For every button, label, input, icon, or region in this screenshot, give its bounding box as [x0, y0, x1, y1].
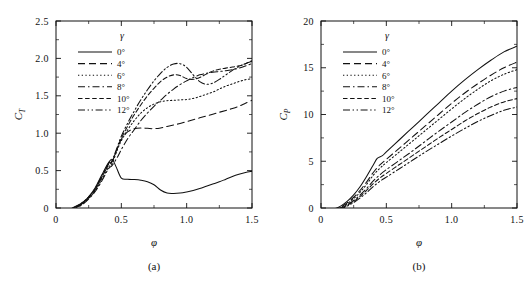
legend-label-0deg: 0° — [117, 47, 126, 57]
axis-frame — [321, 21, 517, 208]
legend: γ0°4°6°8°10°12° — [78, 30, 130, 115]
legend-label-0deg: 0° — [382, 47, 391, 57]
legend-title: γ — [385, 30, 390, 41]
data-curve-10deg — [321, 99, 517, 212]
y-tick-label: 10 — [303, 109, 314, 120]
legend-label-10deg: 10° — [382, 94, 395, 104]
y-tick-label: 1.5 — [35, 90, 49, 101]
panel-caption: (b) — [413, 260, 426, 273]
data-curve-0deg — [321, 46, 517, 211]
x-tick-label: 1.0 — [180, 214, 194, 225]
y-tick-label: 15 — [303, 62, 314, 73]
y-axis-title: CP — [277, 108, 292, 120]
panel-caption: (a) — [148, 260, 161, 273]
x-tick-label: 1.5 — [510, 214, 524, 225]
x-tick-label: 0.5 — [379, 214, 393, 225]
legend-label-8deg: 8° — [382, 82, 391, 92]
plot-area-b: 0510152000.51.01.5CPφ(b)γ0°4°6°8°10°12° — [265, 0, 529, 284]
data-curve-0deg — [56, 159, 252, 211]
x-tick-label: 0.5 — [114, 214, 128, 225]
data-curve-8deg — [321, 87, 517, 211]
y-tick-label: 5 — [309, 156, 314, 167]
x-tick-label: 1.5 — [245, 214, 259, 225]
legend-title: γ — [120, 30, 125, 41]
data-curve-12deg — [56, 61, 252, 211]
data-curve-4deg — [56, 100, 252, 211]
chart-panel-a: 00.51.01.52.02.500.51.01.5CTφ(a)γ0°4°6°8… — [0, 0, 264, 284]
x-axis-title: φ — [416, 236, 422, 248]
curves-group — [321, 46, 517, 212]
plot-area-a: 00.51.01.52.02.500.51.01.5CTφ(a)γ0°4°6°8… — [0, 0, 264, 284]
legend-label-12deg: 12° — [382, 105, 395, 115]
legend-label-6deg: 6° — [382, 71, 391, 81]
legend: γ0°4°6°8°10°12° — [343, 30, 395, 115]
data-curve-10deg — [56, 61, 252, 212]
x-tick-label: 0 — [53, 214, 58, 225]
y-tick-label: 0.5 — [35, 165, 49, 176]
x-axis-title: φ — [151, 236, 157, 248]
x-tick-label: 1.0 — [445, 214, 459, 225]
legend-label-8deg: 8° — [117, 82, 126, 92]
y-tick-label: 0 — [44, 203, 49, 214]
legend-label-6deg: 6° — [117, 71, 126, 81]
y-axis-title: CT — [12, 108, 27, 120]
data-curve-6deg — [321, 70, 517, 212]
y-tick-label: 1.0 — [35, 128, 49, 139]
y-tick-label: 2.0 — [35, 53, 49, 64]
figure-container: 00.51.01.52.02.500.51.01.5CTφ(a)γ0°4°6°8… — [0, 0, 529, 284]
y-tick-label: 0 — [309, 203, 314, 214]
y-tick-label: 2.5 — [35, 16, 49, 27]
curves-group — [56, 61, 252, 212]
x-tick-label: 0 — [318, 214, 323, 225]
chart-panel-b: 0510152000.51.01.5CPφ(b)γ0°4°6°8°10°12° — [265, 0, 529, 284]
data-curve-4deg — [321, 62, 517, 211]
legend-label-4deg: 4° — [117, 59, 126, 69]
legend-label-4deg: 4° — [382, 59, 391, 69]
data-curve-8deg — [56, 64, 252, 212]
axis-frame — [56, 21, 252, 208]
data-curve-12deg — [321, 107, 517, 212]
y-tick-label: 20 — [303, 16, 314, 27]
legend-label-12deg: 12° — [117, 105, 130, 115]
legend-label-10deg: 10° — [117, 94, 130, 104]
